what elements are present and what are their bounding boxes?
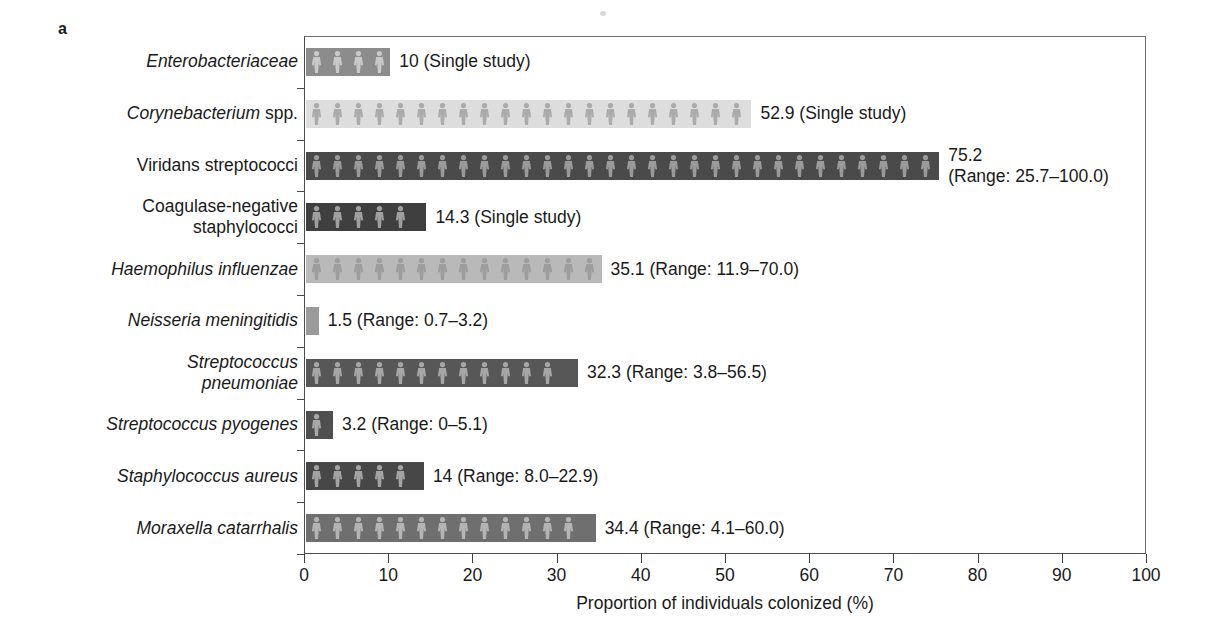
bar xyxy=(306,100,751,128)
person-figure-icon xyxy=(306,100,751,128)
bar xyxy=(306,255,602,283)
person-figure-icon xyxy=(306,255,602,283)
bar-row: Staphylococcus aureus14 (Range: 8.0–22.9… xyxy=(0,453,1214,500)
person-figure-icon xyxy=(306,359,578,387)
person-figure-icon xyxy=(306,152,939,180)
x-axis-tick-label: 100 xyxy=(1131,565,1160,586)
bar xyxy=(306,152,939,180)
x-axis-tick-label: 90 xyxy=(1052,565,1071,586)
x-axis-title: Proportion of individuals colonized (%) xyxy=(304,593,1146,614)
bar-and-value: 1.5 (Range: 0.7–3.2) xyxy=(306,297,488,344)
category-label: Staphylococcus aureus xyxy=(0,466,298,487)
y-axis-tick xyxy=(297,399,304,400)
bar xyxy=(306,203,426,231)
bar-rows: Enterobacteriaceae10 (Single study)Coryn… xyxy=(0,36,1214,554)
bar-value-label: 52.9 (Single study) xyxy=(760,103,906,124)
bar xyxy=(306,307,319,335)
bar-row: Haemophilus influenzae35.1 (Range: 11.9–… xyxy=(0,246,1214,293)
category-label: Coagulase-negative staphylococci xyxy=(0,196,298,238)
x-axis: Proportion of individuals colonized (%) … xyxy=(304,554,1146,624)
person-figure-icon xyxy=(306,307,319,335)
category-label: Corynebacterium spp. xyxy=(0,103,298,124)
bar-and-value: 14 (Range: 8.0–22.9) xyxy=(306,453,598,500)
bar-value-label: 35.1 (Range: 11.9–70.0) xyxy=(611,259,799,280)
bar-and-value: 75.2 (Range: 25.7–100.0) xyxy=(306,142,1109,189)
bar-and-value: 34.4 (Range: 4.1–60.0) xyxy=(306,505,785,552)
x-axis-tick-label: 60 xyxy=(799,565,818,586)
x-axis-tick xyxy=(557,554,558,563)
y-axis-tick xyxy=(297,502,304,503)
bar xyxy=(306,411,333,439)
y-axis-tick xyxy=(297,295,304,296)
y-axis-tick xyxy=(297,191,304,192)
category-label: Streptococcus pyogenes xyxy=(0,414,298,435)
bar-row: Coagulase-negative staphylococci14.3 (Si… xyxy=(0,194,1214,241)
x-axis-tick-label: 50 xyxy=(715,565,734,586)
bar xyxy=(306,462,424,490)
x-axis-tick xyxy=(725,554,726,563)
category-label: Viridans streptococci xyxy=(0,155,298,176)
bar-row: Viridans streptococci75.2 (Range: 25.7–1… xyxy=(0,142,1214,189)
bar-and-value: 35.1 (Range: 11.9–70.0) xyxy=(306,246,799,293)
x-axis-tick xyxy=(1146,554,1147,563)
x-axis-tick-label: 20 xyxy=(463,565,482,586)
x-axis-tick xyxy=(472,554,473,563)
bar-and-value: 52.9 (Single study) xyxy=(306,90,906,137)
person-figure-icon xyxy=(306,48,390,76)
category-label: Neisseria meningitidis xyxy=(0,310,298,331)
category-label: Moraxella catarrhalis xyxy=(0,518,298,539)
scan-artifact-speck xyxy=(600,11,606,16)
bar-row: Streptococcus pyogenes3.2 (Range: 0–5.1) xyxy=(0,401,1214,448)
bar xyxy=(306,514,596,542)
y-axis-tick xyxy=(297,140,304,141)
bar-value-label: 14 (Range: 8.0–22.9) xyxy=(433,466,598,487)
bar-value-label: 32.3 (Range: 3.8–56.5) xyxy=(587,362,767,383)
bar-value-label: 75.2 (Range: 25.7–100.0) xyxy=(948,145,1109,187)
bar-value-label: 10 (Single study) xyxy=(399,51,530,72)
x-axis-tick-label: 80 xyxy=(968,565,987,586)
x-axis-tick-label: 0 xyxy=(299,565,309,586)
bar xyxy=(306,48,390,76)
x-axis-tick-label: 40 xyxy=(631,565,650,586)
bar-value-label: 34.4 (Range: 4.1–60.0) xyxy=(605,518,785,539)
category-label: Enterobacteriaceae xyxy=(0,51,298,72)
bar-row: Streptococcus pneumoniae32.3 (Range: 3.8… xyxy=(0,349,1214,396)
bar-value-label: 14.3 (Single study) xyxy=(435,207,581,228)
category-label: Haemophilus influenzae xyxy=(0,259,298,280)
person-figure-icon xyxy=(306,462,424,490)
x-axis-tick xyxy=(388,554,389,563)
bar-and-value: 3.2 (Range: 0–5.1) xyxy=(306,401,488,448)
y-axis-tick xyxy=(297,450,304,451)
bar-and-value: 10 (Single study) xyxy=(306,38,531,85)
bar-and-value: 14.3 (Single study) xyxy=(306,194,581,241)
person-figure-icon xyxy=(306,514,596,542)
bar xyxy=(306,359,578,387)
bar-row: Enterobacteriaceae10 (Single study) xyxy=(0,38,1214,85)
x-axis-tick-label: 30 xyxy=(547,565,566,586)
x-axis-tick-label: 70 xyxy=(884,565,903,586)
x-axis-tick xyxy=(1062,554,1063,563)
x-axis-tick xyxy=(809,554,810,563)
x-axis-tick xyxy=(304,554,305,563)
y-axis-tick xyxy=(297,347,304,348)
bar-row: Corynebacterium spp.52.9 (Single study) xyxy=(0,90,1214,137)
x-axis-tick xyxy=(893,554,894,563)
y-axis-tick xyxy=(297,88,304,89)
bar-value-label: 1.5 (Range: 0.7–3.2) xyxy=(328,310,489,331)
x-axis-tick-label: 10 xyxy=(378,565,397,586)
category-label: Streptococcus pneumoniae xyxy=(0,352,298,394)
x-axis-tick xyxy=(978,554,979,563)
bar-row: Moraxella catarrhalis34.4 (Range: 4.1–60… xyxy=(0,505,1214,552)
y-axis-tick xyxy=(297,554,304,555)
bar-value-label: 3.2 (Range: 0–5.1) xyxy=(342,414,488,435)
y-axis-tick xyxy=(297,243,304,244)
bar-row: Neisseria meningitidis1.5 (Range: 0.7–3.… xyxy=(0,297,1214,344)
x-axis-tick xyxy=(641,554,642,563)
person-figure-icon xyxy=(306,411,333,439)
figure-panel-a: a Enterobacteriaceae10 (Single study)Cor… xyxy=(0,0,1214,643)
bar-and-value: 32.3 (Range: 3.8–56.5) xyxy=(306,349,767,396)
person-figure-icon xyxy=(306,203,426,231)
